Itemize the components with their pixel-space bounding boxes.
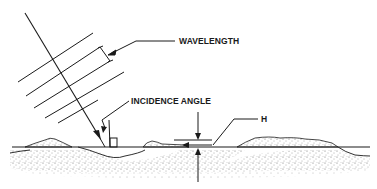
terrain-mounds: [25, 137, 338, 147]
incidence-angle-marker: [97, 101, 129, 147]
right-angle-box: [110, 138, 117, 147]
height-label: H: [261, 114, 267, 124]
wavelength-bracket: [98, 41, 175, 62]
stippled-ground: [10, 150, 370, 179]
wavelength-label: WAVELENGTH: [179, 36, 239, 46]
incidence-angle-label: INCIDENCE ANGLE: [131, 96, 211, 106]
incident-ray: [25, 13, 101, 140]
wavefront-lines: [18, 33, 124, 123]
diagram-canvas: [0, 0, 377, 189]
